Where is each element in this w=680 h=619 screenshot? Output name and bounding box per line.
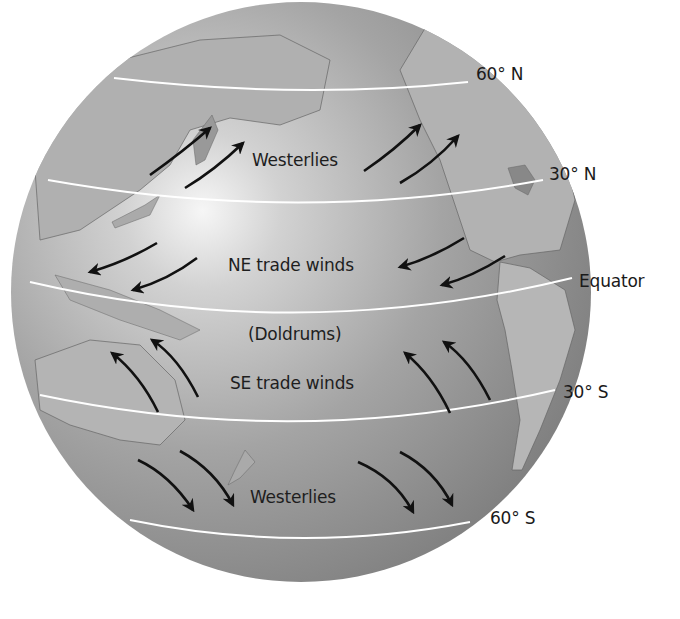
label-equator: Equator <box>579 271 644 291</box>
label-60s: 60° S <box>490 508 535 528</box>
label-doldrums: (Doldrums) <box>248 324 341 344</box>
label-30s: 30° S <box>563 382 608 402</box>
label-30n: 30° N <box>549 164 596 184</box>
label-se-trade-winds: SE trade winds <box>230 373 354 393</box>
label-south-westerlies: Westerlies <box>250 487 336 507</box>
label-60n: 60° N <box>476 64 523 84</box>
globe-diagram <box>0 0 680 619</box>
label-north-westerlies: Westerlies <box>252 150 338 170</box>
label-ne-trade-winds: NE trade winds <box>228 255 354 275</box>
